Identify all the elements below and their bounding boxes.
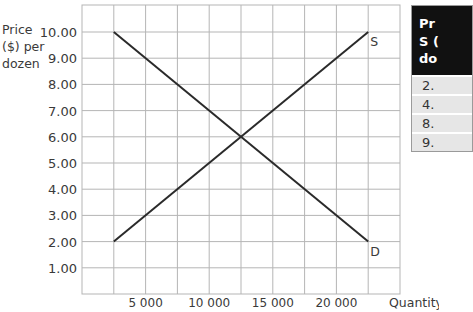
y-tick-label: 9.00 [48, 51, 77, 66]
y-axis-title-line: ($) per [2, 39, 45, 54]
x-axis-title: Quantity [389, 295, 439, 310]
y-tick-label: 8.00 [48, 77, 77, 92]
table-row: 2. [412, 75, 472, 94]
x-tick-label: 5 000 [128, 296, 162, 310]
y-axis-title-line: dozen [2, 56, 40, 71]
x-axis-ticks: 5 00010 00015 00020 000 [128, 296, 357, 310]
y-tick-label: 3.00 [48, 208, 77, 223]
y-tick-label: 7.00 [48, 104, 77, 119]
table-row: 8. [412, 113, 472, 132]
table-header: Pr S ( do [412, 6, 472, 75]
table-header-line: Pr [419, 15, 472, 33]
demand-label: D [370, 244, 380, 259]
grid-lines [82, 5, 400, 294]
y-tick-label: 5.00 [48, 156, 77, 171]
y-tick-label: 4.00 [48, 182, 77, 197]
y-tick-label: 2.00 [48, 235, 77, 250]
supply-label: S [370, 34, 378, 49]
table-header-line: do [419, 50, 472, 68]
x-tick-label: 10 000 [188, 296, 230, 310]
y-axis-ticks: 1.002.003.004.005.006.007.008.009.0010.0… [40, 25, 77, 276]
y-axis-title-line: Price [2, 22, 33, 37]
supply-schedule-table: Pr S ( do 2. 4. 8. 9. [411, 5, 473, 152]
y-tick-label: 6.00 [48, 130, 77, 145]
table-row: 9. [412, 132, 472, 151]
table-header-line: S ( [419, 33, 472, 51]
x-tick-label: 20 000 [315, 296, 357, 310]
curves: SD [114, 32, 380, 259]
y-tick-label: 10.00 [40, 25, 77, 40]
y-tick-label: 1.00 [48, 261, 77, 276]
x-tick-label: 15 000 [252, 296, 294, 310]
table-row: 4. [412, 94, 472, 113]
